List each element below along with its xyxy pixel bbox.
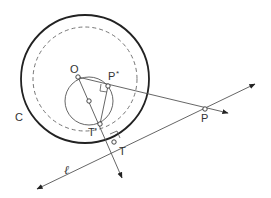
- point-t: [112, 140, 116, 144]
- point-o: [76, 75, 80, 79]
- point-midpoint: [87, 99, 91, 103]
- label-ell: ℓ: [64, 163, 69, 177]
- label-tprime: T': [88, 126, 97, 138]
- geometry-diagram: O P * T' C P T ℓ: [0, 0, 271, 198]
- point-pstar: [106, 84, 110, 88]
- label-pstar: P: [108, 70, 115, 82]
- point-tprime: [98, 122, 102, 126]
- label-pstar-sup: *: [116, 69, 119, 78]
- label-t: T: [119, 145, 126, 157]
- point-p: [203, 107, 207, 111]
- label-o: O: [70, 63, 79, 75]
- ray-o-t: [78, 77, 122, 178]
- label-p: P: [201, 112, 208, 124]
- label-c: C: [15, 111, 23, 123]
